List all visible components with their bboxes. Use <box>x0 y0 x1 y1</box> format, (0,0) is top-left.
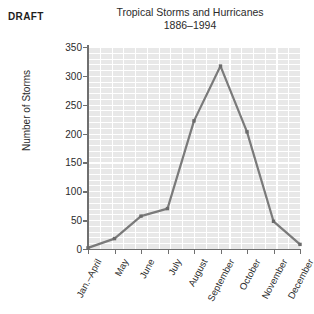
data-point-marker <box>272 220 275 223</box>
x-axis-tick-mark <box>194 250 195 254</box>
y-axis-tick-label: 0 <box>48 244 82 255</box>
y-axis-tick-mark <box>83 134 87 135</box>
y-axis-tick-label: 250 <box>48 99 82 110</box>
series-markers <box>86 64 301 249</box>
chart-title: Tropical Storms and Hurricanes 1886–1994 <box>70 6 310 31</box>
y-axis-title: Number of Storms <box>21 51 32 171</box>
chart-title-main: Tropical Storms and Hurricanes <box>70 6 310 19</box>
data-point-marker <box>139 214 142 217</box>
x-axis-tick-label-text: May <box>112 257 130 278</box>
data-point-marker <box>166 207 169 210</box>
y-axis-tick-mark <box>83 220 87 221</box>
y-axis-tick-mark <box>83 191 87 192</box>
y-axis-tick-mark <box>83 162 87 163</box>
x-axis-tick-mark <box>141 250 142 254</box>
data-point-marker <box>113 237 116 240</box>
data-point-marker <box>192 119 195 122</box>
y-axis-tick-label: 150 <box>48 157 82 168</box>
data-series-line <box>88 47 300 249</box>
data-point-marker <box>86 246 89 249</box>
y-axis-tick-label: 350 <box>48 42 82 53</box>
x-axis-tick-mark <box>88 250 89 254</box>
y-axis-tick-label: 300 <box>48 70 82 81</box>
data-point-marker <box>219 64 222 67</box>
y-axis-tick-mark <box>83 47 87 48</box>
x-axis-tick-label-text: December <box>285 257 314 301</box>
x-axis-tick-mark <box>274 250 275 254</box>
y-axis-tick-labels: 350300250200150100500 <box>48 47 82 249</box>
x-axis-tick-mark <box>168 250 169 254</box>
y-axis-tick-label: 200 <box>48 128 82 139</box>
x-axis-tick-label-text: Jan.–April <box>74 257 104 299</box>
x-axis-tick-mark <box>247 250 248 254</box>
chart-title-subtitle: 1886–1994 <box>70 19 310 32</box>
y-axis-tick-label: 50 <box>48 215 82 226</box>
y-axis-tick-mark <box>83 105 87 106</box>
x-axis-tick-label-text: September <box>204 257 236 303</box>
series-polyline <box>88 66 300 248</box>
data-point-marker <box>298 243 301 246</box>
x-axis-tick-label-text: October <box>237 257 263 292</box>
x-axis-tick-label-text: June <box>137 257 156 280</box>
x-axis-tick-mark <box>221 250 222 254</box>
x-axis-tick-label-text: August <box>186 257 210 288</box>
data-point-marker <box>245 130 248 133</box>
y-axis-tick-label: 100 <box>48 186 82 197</box>
draft-watermark: DRAFT <box>8 11 44 22</box>
y-axis-tick-mark <box>83 76 87 77</box>
x-axis-tick-mark <box>115 250 116 254</box>
x-axis-tick-label-text: July <box>165 257 183 277</box>
x-axis-tick-mark <box>300 250 301 254</box>
